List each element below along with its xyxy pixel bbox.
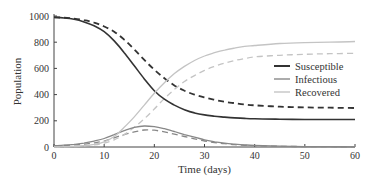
y-tick-label: 800 <box>34 37 49 48</box>
x-axis-label: Time (days) <box>178 163 231 176</box>
legend-label-susceptible: Susceptible <box>295 61 344 72</box>
x-tick-label: 60 <box>350 150 360 161</box>
y-tick-label: 600 <box>34 63 49 74</box>
legend: SusceptibleInfectiousRecovered <box>274 61 344 98</box>
x-tick-label: 10 <box>99 150 109 161</box>
legend-label-infectious: Infectious <box>295 74 337 85</box>
x-tick-label: 0 <box>52 150 57 161</box>
y-tick-label: 1000 <box>29 11 49 22</box>
y-tick-label: 200 <box>34 115 49 126</box>
x-tick-label: 50 <box>300 150 310 161</box>
x-tick-label: 30 <box>200 150 210 161</box>
sir-model-chart: 020040060080010000102030405060Time (days… <box>0 0 383 182</box>
y-axis-label: Population <box>11 57 23 105</box>
y-tick-label: 0 <box>44 142 49 153</box>
y-tick-label: 400 <box>34 89 49 100</box>
plot-area: 020040060080010000102030405060Time (days… <box>0 0 383 182</box>
legend-label-recovered: Recovered <box>295 87 341 98</box>
x-tick-label: 20 <box>149 150 159 161</box>
x-tick-label: 40 <box>250 150 260 161</box>
